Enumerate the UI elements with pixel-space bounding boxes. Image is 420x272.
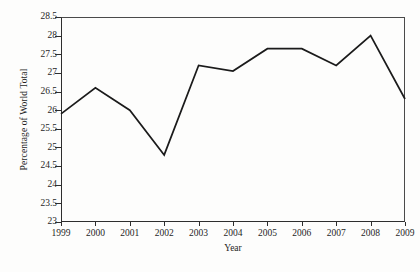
x-axis-tick-mark [336, 222, 337, 226]
y-axis-tick-label: 25.5 [26, 124, 57, 134]
y-axis-tick-label: 23 [26, 217, 57, 227]
x-axis-tick-mark [267, 222, 268, 226]
data-series-line-percentage-of-world-total [61, 17, 405, 222]
x-axis-tick-mark [164, 222, 165, 226]
x-axis-tick-mark [95, 222, 96, 226]
y-axis-tick-label-group: 28.52827.52726.52625.52524.52423.523 [26, 17, 57, 222]
x-axis-tick-mark [130, 222, 131, 226]
x-axis-tick-mark [371, 222, 372, 226]
line-chart-figure: Percentage of World Total 28.52827.52726… [0, 0, 420, 272]
y-axis-tick-label: 28.5 [26, 12, 57, 22]
y-axis-tick-label: 24.5 [26, 161, 57, 171]
x-axis-tick-mark [405, 222, 406, 226]
caption-sliver [61, 263, 405, 272]
y-axis-tick-label: 24 [26, 180, 57, 190]
x-axis-tick-label: 2009 [383, 227, 420, 239]
x-axis-tick-mark [61, 222, 62, 226]
x-axis-tick-mark [302, 222, 303, 226]
y-axis-tick-label: 25 [26, 143, 57, 153]
data-line-path [61, 36, 405, 155]
y-axis-tick-label: 26.5 [26, 87, 57, 97]
y-axis-tick-label: 28 [26, 31, 57, 41]
x-axis-tick-mark [233, 222, 234, 226]
x-axis-tick-label-group: 1999200020012002200320042005200620072008… [61, 227, 405, 241]
y-axis-tick-label: 27.5 [26, 50, 57, 60]
y-axis-tick-label: 27 [26, 68, 57, 78]
x-axis-title: Year [61, 243, 405, 254]
y-axis-tick-label: 26 [26, 106, 57, 116]
x-axis-tick-mark [199, 222, 200, 226]
y-axis-tick-label: 23.5 [26, 199, 57, 209]
